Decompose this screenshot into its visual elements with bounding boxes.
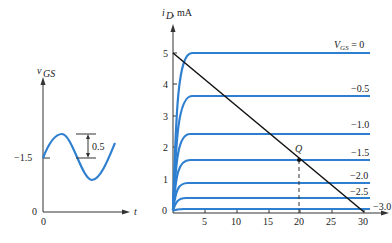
svg-text:3: 3 bbox=[163, 111, 168, 122]
curve-vgs-3.0 bbox=[173, 209, 370, 211]
svg-text:4: 4 bbox=[163, 79, 168, 90]
svg-text:15: 15 bbox=[263, 216, 273, 227]
svg-text:5: 5 bbox=[163, 48, 168, 59]
input-waveform-plot: v GS t 0 0 −1.5 0.5 bbox=[14, 65, 137, 227]
amplitude-label: 0.5 bbox=[92, 141, 105, 152]
q-label: Q bbox=[295, 143, 303, 154]
curve-vgs-1.5 bbox=[173, 160, 370, 210]
svg-text:10: 10 bbox=[231, 216, 241, 227]
label-vgs-1.0: −1.0 bbox=[351, 119, 369, 130]
svg-text:20: 20 bbox=[294, 216, 304, 227]
load-line bbox=[173, 53, 364, 212]
output-characteristics-plot: i D , mA 0 1 2 3 4 5 5 10 15 20 25 30 bbox=[162, 7, 391, 227]
q-point bbox=[297, 158, 301, 162]
svg-text:, mA: , mA bbox=[172, 7, 193, 18]
x-origin: 0 bbox=[41, 216, 46, 227]
y-axis-label: v bbox=[37, 65, 42, 76]
label-vgs-3.0: −3.0 bbox=[373, 201, 391, 212]
svg-text:1: 1 bbox=[163, 174, 168, 185]
svg-text:5: 5 bbox=[202, 216, 207, 227]
y-axis-sub: GS bbox=[43, 68, 55, 79]
x-axis-arrow-icon bbox=[122, 210, 130, 215]
y-axis-label: i bbox=[162, 7, 165, 18]
dc-level-label: −1.5 bbox=[14, 152, 32, 163]
y-origin: 0 bbox=[32, 206, 37, 217]
y-axis-arrow-icon bbox=[171, 24, 176, 32]
label-vgs-0: VGS = 0 bbox=[334, 39, 364, 52]
label-vgs-2.5: −2.5 bbox=[350, 186, 368, 197]
x-ticks: 5 10 15 20 25 30 bbox=[202, 209, 368, 227]
curve-vgs-0 bbox=[173, 53, 370, 210]
label-vgs-1.5: −1.5 bbox=[351, 147, 369, 158]
svg-text:30: 30 bbox=[358, 216, 368, 227]
svg-text:0: 0 bbox=[162, 205, 167, 216]
label-vgs-0.5: −0.5 bbox=[351, 83, 369, 94]
x-axis-label: t bbox=[134, 206, 137, 217]
svg-text:25: 25 bbox=[326, 216, 336, 227]
jfet-diagram: v GS t 0 0 −1.5 0.5 i D , mA 0 1 2 3 4 5 bbox=[0, 0, 392, 243]
svg-text:2: 2 bbox=[163, 142, 168, 153]
label-vgs-2.0: −2.0 bbox=[350, 170, 368, 181]
curve-vgs-2.0 bbox=[173, 183, 370, 210]
